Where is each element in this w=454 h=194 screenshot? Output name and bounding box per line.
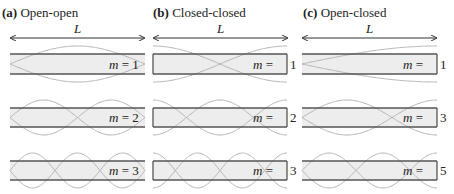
- panel-a-tag: (a): [2, 5, 17, 20]
- tube-b-mode-2: m = 2: [153, 100, 297, 135]
- standing-waves-figure: (a) Open-open (b) Closed-closed (c) Open…: [0, 0, 454, 194]
- tube-c-mode-3: m = 3: [302, 100, 447, 135]
- panel-b-name: Closed-closed: [172, 5, 246, 20]
- tube-a-mode-3: m = 3: [10, 153, 145, 188]
- mode-label: m = 2: [109, 110, 139, 125]
- mode-label: m =: [403, 163, 423, 178]
- mode-value: 1: [440, 57, 447, 72]
- mode-label: m =: [403, 57, 423, 72]
- tube-b-mode-3: m = 3: [153, 153, 297, 188]
- length-arrow-b: L: [154, 21, 287, 38]
- mode-value: 1: [290, 57, 297, 72]
- mode-label: m =: [403, 110, 423, 125]
- mode-label: m = 3: [109, 163, 139, 178]
- mode-value: 3: [290, 163, 297, 178]
- panel-c-tag: (c): [303, 5, 317, 20]
- mode-value: 2: [290, 110, 297, 125]
- panel-c-name: Open-closed: [321, 5, 387, 20]
- panel-c-title: (c) Open-closed: [303, 5, 387, 20]
- length-arrow-c: L: [303, 21, 436, 38]
- tube-a-mode-2: m = 2: [10, 100, 145, 135]
- length-arrow-a: L: [11, 21, 144, 38]
- tube-a-mode-1: m = 1: [10, 46, 145, 82]
- panel-b-title: (b) Closed-closed: [153, 5, 246, 20]
- mode-value: 5: [440, 163, 447, 178]
- tube-c-mode-5: m = 5: [302, 153, 447, 188]
- mode-label: m =: [253, 163, 273, 178]
- mode-label: m =: [253, 57, 273, 72]
- length-label-c: L: [365, 21, 373, 36]
- mode-value: 3: [440, 110, 447, 125]
- length-label-b: L: [216, 21, 224, 36]
- panel-b-tag: (b): [153, 5, 169, 20]
- tube-b-mode-1: m = 1: [153, 46, 297, 82]
- mode-label: m =: [253, 110, 273, 125]
- panel-a-title: (a) Open-open: [2, 5, 79, 20]
- mode-label: m = 1: [109, 57, 139, 72]
- panel-a-name: Open-open: [20, 5, 78, 20]
- length-label-a: L: [73, 21, 81, 36]
- tube-c-mode-1: m = 1: [302, 46, 447, 82]
